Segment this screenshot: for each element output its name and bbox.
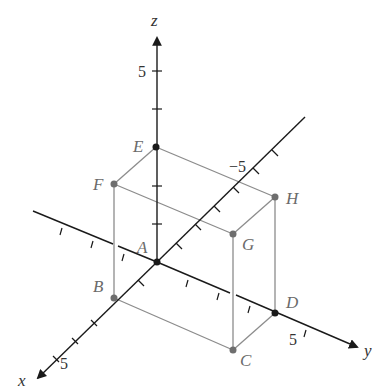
x-axis-label: x	[17, 371, 26, 390]
vertex-a	[154, 259, 161, 266]
x-axis-negative	[157, 117, 305, 262]
z-axis-label: z	[150, 11, 158, 30]
label-f: F	[92, 175, 104, 194]
y-axis-left	[33, 211, 113, 244]
label-h: H	[285, 189, 300, 208]
vertex-e	[153, 144, 160, 151]
label-b: B	[93, 277, 104, 296]
label-d: D	[285, 293, 299, 312]
y-axis-label: y	[362, 341, 372, 360]
vertex-d	[272, 310, 279, 317]
vertex-f	[111, 181, 118, 188]
label-e: E	[132, 137, 144, 156]
vertex-b	[111, 295, 118, 302]
vertex-g	[230, 231, 237, 238]
label-g: G	[242, 235, 254, 254]
y-axis	[157, 262, 230, 293]
z-tick-5: 5	[138, 63, 146, 80]
x-tick-5: 5	[60, 355, 68, 372]
vertex-c	[230, 347, 237, 354]
axes	[33, 38, 357, 378]
label-a: A	[136, 238, 148, 257]
vertex-h	[272, 194, 279, 201]
label-c: C	[240, 351, 252, 370]
y-tick-neg5: −5	[229, 158, 246, 175]
coordinate-diagram: z x y 5 5 5 −5 A B C D E F G H	[0, 0, 388, 392]
y-tick-5: 5	[289, 331, 297, 348]
